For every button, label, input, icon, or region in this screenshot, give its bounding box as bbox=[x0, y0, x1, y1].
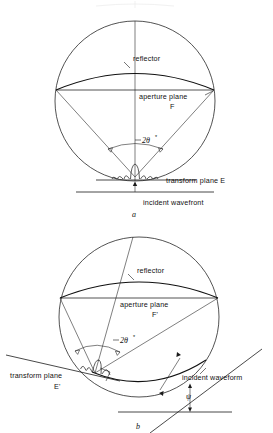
aperture-plane-symbol-a: F bbox=[170, 102, 175, 111]
angle-arrow-right-b bbox=[115, 351, 120, 355]
transform-plane-symbol-b: E' bbox=[54, 382, 61, 391]
edge-ray-left-a bbox=[56, 90, 135, 177]
angle-arrow-left-b bbox=[75, 350, 80, 354]
panel-a: reflector aperture plane F 2θ * transfor… bbox=[55, 21, 225, 219]
transform-plane-label-b: transform plane bbox=[10, 371, 62, 380]
reflector-leader-a bbox=[124, 62, 130, 68]
caption-b: b bbox=[136, 422, 140, 431]
panel-b: reflector aperture plane F' 2θ * transfo… bbox=[6, 237, 262, 433]
scan-bleed-artifact bbox=[96, 1, 174, 8]
side-lobe-l1-a bbox=[124, 176, 130, 179]
angle-label-b: 2θ bbox=[120, 336, 128, 345]
side-lobe-l2-b bbox=[81, 366, 87, 370]
reflector-arc-b bbox=[60, 282, 218, 298]
angle-superscript-b: * bbox=[133, 334, 136, 340]
figure-canvas: reflector aperture plane F 2θ * transfor… bbox=[0, 0, 273, 433]
angle-arc-a bbox=[108, 144, 163, 150]
incident-waveform-line-b bbox=[150, 349, 262, 433]
side-lobe-r2-a bbox=[147, 177, 153, 180]
incident-wavefront-label-a: incident wavefront bbox=[143, 198, 204, 207]
aperture-plane-label-b: aperture plane bbox=[120, 300, 168, 309]
reflector-label-b: reflector bbox=[137, 266, 165, 275]
reflector-leader-b bbox=[128, 274, 134, 280]
reflector-label-a: reflector bbox=[133, 54, 161, 63]
transform-plane-label-a: transform plane E bbox=[166, 176, 225, 185]
angle-label-a: 2θ bbox=[142, 136, 150, 145]
aperture-plane-leader-a bbox=[205, 91, 213, 95]
aperture-plane-symbol-b: F' bbox=[152, 310, 159, 319]
caption-a: a bbox=[132, 210, 136, 219]
aperture-plane-label-a: aperture plane bbox=[139, 92, 187, 101]
incident-arrow-head-a bbox=[133, 182, 137, 187]
side-lobe-r1-a bbox=[141, 176, 147, 179]
angle-arc-b bbox=[75, 345, 120, 352]
angle-superscript-a: * bbox=[155, 134, 158, 140]
side-lobe-l2-a bbox=[118, 177, 124, 180]
incident-waveform-label-b: incident waveform bbox=[182, 373, 242, 382]
tilt-angle-label-b: ψ bbox=[186, 392, 192, 401]
edge-ray-left-b bbox=[60, 298, 95, 373]
side-lobe-l1-b bbox=[87, 368, 93, 372]
